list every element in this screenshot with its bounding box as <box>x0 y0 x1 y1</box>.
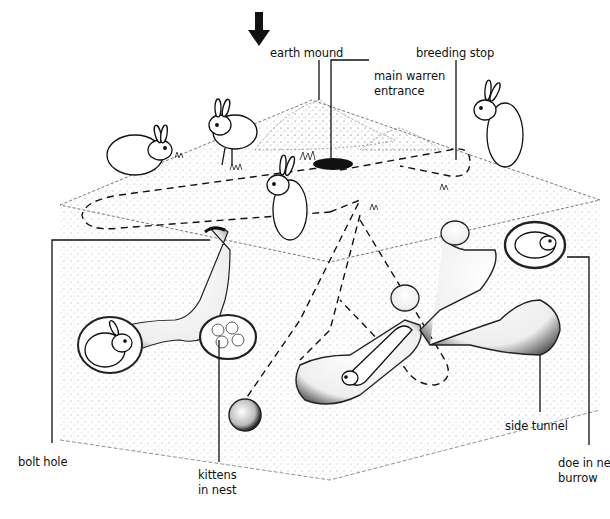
label-kittens-line1: kittens <box>198 468 237 483</box>
bolt-hole-opening <box>229 399 261 431</box>
warren-diagram: earth mound breeding stop main warren en… <box>0 0 610 519</box>
down-arrow-icon <box>248 12 270 46</box>
label-earth-mound: earth mound <box>270 46 343 61</box>
kittens-nest <box>200 315 256 359</box>
label-doe-line1: doe in ne <box>558 456 610 471</box>
warren-illustration <box>0 0 610 519</box>
label-main-warren-entrance: main warren entrance <box>374 69 445 99</box>
label-breeding-stop: breeding stop <box>416 46 494 61</box>
label-side-tunnel: side tunnel <box>505 419 568 434</box>
main-entrance-hole <box>313 158 353 170</box>
label-doe-in-new-burrow: doe in ne burrow <box>558 456 610 486</box>
label-kittens-line2: in nest <box>198 483 237 498</box>
label-doe-line2: burrow <box>558 471 610 486</box>
label-bolt-hole: bolt hole <box>18 455 67 470</box>
label-main-warren-entrance-line2: entrance <box>374 84 445 99</box>
rabbit-icon <box>474 80 523 167</box>
rabbit-icon <box>515 232 556 258</box>
label-main-warren-entrance-line1: main warren <box>374 69 445 84</box>
label-kittens-in-nest: kittens in nest <box>198 468 237 498</box>
